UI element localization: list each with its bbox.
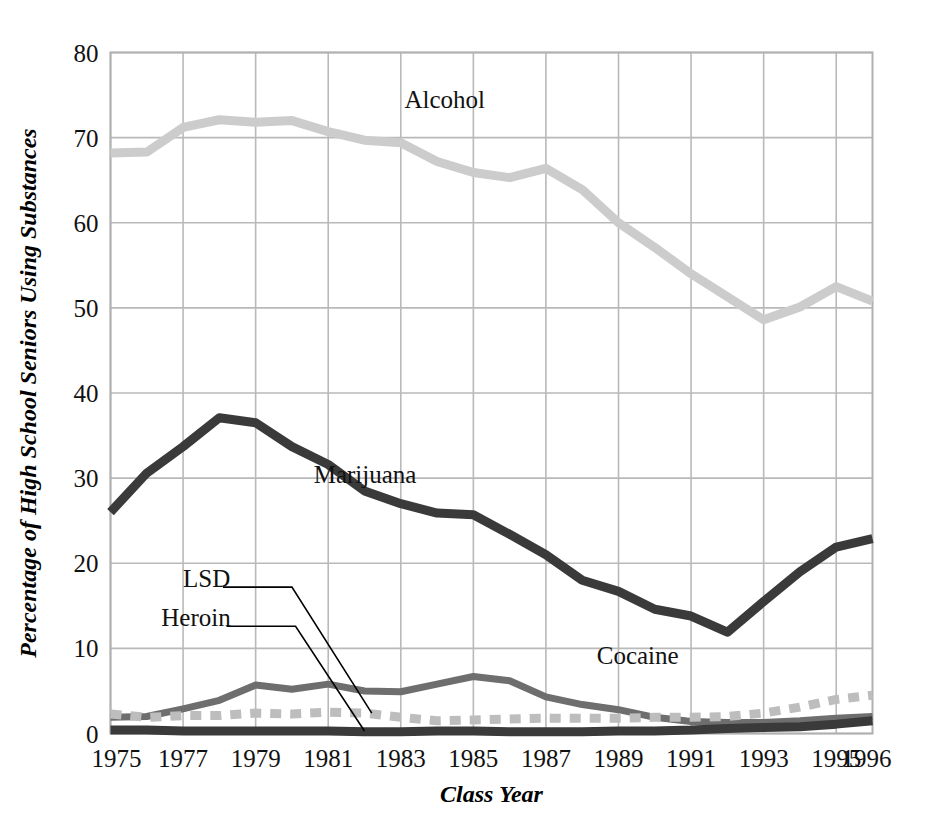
y-axis-tick-labels: 01020304050607080 xyxy=(74,40,99,748)
y-tick-label-40: 40 xyxy=(74,380,99,407)
series-lines-group xyxy=(111,120,873,732)
x-tick-label-1975: 1975 xyxy=(92,745,142,772)
series-label-lsd: LSD xyxy=(183,565,230,592)
x-tick-label-1991: 1991 xyxy=(666,745,716,772)
x-tick-label-1993: 1993 xyxy=(739,745,789,772)
x-tick-label-1989: 1989 xyxy=(594,745,644,772)
y-tick-label-60: 60 xyxy=(74,210,99,237)
y-tick-label-50: 50 xyxy=(74,295,99,322)
gridlines-group xyxy=(111,53,873,734)
substance-use-line-chart: 01020304050607080 1975197719791981198319… xyxy=(0,0,933,823)
x-tick-label-1985: 1985 xyxy=(448,745,498,772)
x-axis-title: Class Year xyxy=(440,781,544,807)
y-tick-label-80: 80 xyxy=(74,40,99,67)
x-tick-label-1996: 1996 xyxy=(842,745,892,772)
x-axis-tick-labels: 1975197719791981198319851987198919911993… xyxy=(92,745,892,772)
y-tick-label-0: 0 xyxy=(86,721,99,748)
x-tick-label-1987: 1987 xyxy=(521,745,571,772)
series-line-marijuana xyxy=(111,418,873,633)
series-label-heroin: Heroin xyxy=(161,604,231,631)
y-axis-title: Percentage of High School Seniors Using … xyxy=(15,128,41,658)
chart-canvas: 01020304050607080 1975197719791981198319… xyxy=(0,0,933,823)
series-line-alcohol xyxy=(111,120,873,320)
y-tick-label-30: 30 xyxy=(74,465,99,492)
series-inline-labels: AlcoholMarijuanaCocaineLSDHeroin xyxy=(161,86,678,669)
series-label-cocaine: Cocaine xyxy=(597,642,679,669)
x-tick-label-1979: 1979 xyxy=(231,745,281,772)
y-tick-label-20: 20 xyxy=(74,550,99,577)
x-tick-label-1983: 1983 xyxy=(376,745,426,772)
y-tick-label-70: 70 xyxy=(74,125,99,152)
lsd-leader xyxy=(223,587,372,713)
series-label-marijuana: Marijuana xyxy=(314,461,417,488)
series-label-alcohol: Alcohol xyxy=(404,86,485,113)
y-tick-label-10: 10 xyxy=(74,635,99,662)
x-tick-label-1977: 1977 xyxy=(158,745,208,772)
x-tick-label-1981: 1981 xyxy=(303,745,353,772)
